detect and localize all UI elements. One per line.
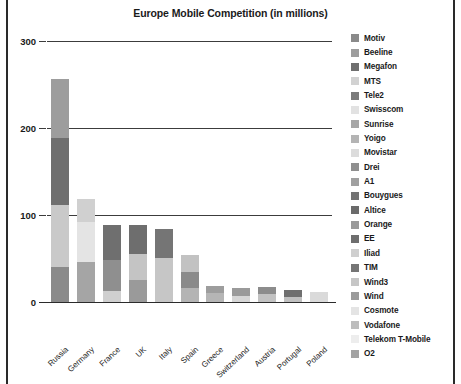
bar-segment-beeline [51, 205, 69, 268]
y-tick-mark-100 [39, 215, 46, 216]
legend-item-o2[interactable]: O2 [351, 347, 455, 361]
bar-segment-altice [103, 260, 121, 290]
legend-swatch-icon [351, 92, 359, 100]
bar-segment-wind3 [155, 258, 173, 302]
legend-label: MTS [364, 77, 381, 86]
legend-swatch-icon [351, 135, 359, 143]
legend-label: A1 [364, 177, 374, 186]
bar-segment-movistar [181, 255, 199, 272]
legend-item-wind3[interactable]: Wind3 [351, 275, 455, 289]
x-axis-label-uk: UK [134, 345, 148, 359]
legend-item-sunrise[interactable]: Sunrise [351, 117, 455, 131]
legend-swatch-icon [351, 34, 359, 42]
legend-label: Bouygues [364, 191, 403, 200]
legend-label: Megafon [364, 62, 397, 71]
bar-segment-telekom-t-mobile [77, 222, 95, 262]
legend-label: Cosmote [364, 306, 398, 315]
bar-russia [51, 79, 69, 302]
bar-segment-ee [129, 225, 147, 254]
legend-swatch-icon [351, 278, 359, 286]
legend-label: Sunrise [364, 120, 393, 129]
bar-segment-o2 [77, 199, 95, 222]
y-axis-label-100: 100 [20, 210, 36, 221]
bar-italy [155, 229, 173, 302]
legend-label: Movistar [364, 148, 397, 157]
y-axis-label-0: 0 [31, 297, 36, 308]
legend-item-mts[interactable]: MTS [351, 74, 455, 88]
bar-segment-motiv [51, 267, 69, 302]
x-axis-label-portugal: Portugal [275, 345, 303, 372]
legend-swatch-icon [351, 264, 359, 272]
legend-item-swisscom[interactable]: Swisscom [351, 103, 455, 117]
legend-item-vodafone[interactable]: Vodafone [351, 318, 455, 332]
legend-label: Yoigo [364, 134, 386, 143]
legend-swatch-icon [351, 63, 359, 71]
bar-segment-yoigo [181, 288, 199, 302]
legend-label: TIM [364, 263, 378, 272]
y-axis-label-200: 200 [20, 123, 36, 134]
bar-segment-mts [51, 79, 69, 137]
bar-segment-o2 [129, 280, 147, 302]
y-tick-mark-300 [39, 41, 46, 42]
legend-item-altice[interactable]: Altice [351, 203, 455, 217]
legend-item-cosmote[interactable]: Cosmote [351, 304, 455, 318]
legend-label: O2 [364, 349, 375, 358]
x-axis-label-italy: Italy [157, 345, 174, 362]
legend-item-motiv[interactable]: Motiv [351, 31, 455, 45]
x-axis-label-russia: Russia [46, 345, 70, 368]
chart-figure: Europe Mobile Competition (in millions) … [0, 0, 461, 384]
page-edge-left [6, 0, 8, 384]
legend-item-tim[interactable]: TIM [351, 261, 455, 275]
bar-segment-orange [181, 272, 199, 289]
legend-label: Altice [364, 206, 386, 215]
bar-segment-sunrise [232, 288, 250, 296]
legend-item-telekom-t-mobile[interactable]: Telekom T-Mobile [351, 332, 455, 346]
legend-swatch-icon [351, 77, 359, 85]
legend-item-drei[interactable]: Drei [351, 160, 455, 174]
legend-swatch-icon [351, 192, 359, 200]
legend-swatch-icon [351, 321, 359, 329]
bar-segment-a1 [258, 294, 276, 302]
bar-poland [310, 292, 328, 302]
legend-swatch-icon [351, 307, 359, 315]
legend-item-orange[interactable]: Orange [351, 217, 455, 231]
legend-label: EE [364, 234, 375, 243]
legend-item-movistar[interactable]: Movistar [351, 146, 455, 160]
bar-segment-vodafone [129, 254, 147, 280]
bar-austria [258, 287, 276, 302]
bar-segment-meo [284, 290, 302, 297]
legend-item-tele2[interactable]: Tele2 [351, 88, 455, 102]
bar-segment-swisscom [232, 296, 250, 302]
legend-item-wind[interactable]: Wind [351, 289, 455, 303]
bar-segment-play [310, 292, 328, 302]
legend-swatch-icon [351, 292, 359, 300]
bar-segment-megafon [51, 138, 69, 205]
y-axis-label-300: 300 [20, 36, 36, 47]
legend-label: Tele2 [364, 91, 384, 100]
legend-swatch-icon [351, 235, 359, 243]
legend-item-ee[interactable]: EE [351, 232, 455, 246]
bar-portugal [284, 290, 302, 302]
legend-swatch-icon [351, 120, 359, 128]
bar-group [47, 41, 332, 302]
legend-item-yoigo[interactable]: Yoigo [351, 131, 455, 145]
legend-item-a1[interactable]: A1 [351, 174, 455, 188]
legend-item-beeline[interactable]: Beeline [351, 45, 455, 59]
bar-france [103, 225, 121, 302]
y-tick-mark-200 [39, 128, 46, 129]
legend-label: Vodafone [364, 321, 400, 330]
x-axis-label-france: France [98, 345, 122, 369]
bar-greece [206, 286, 224, 302]
bar-spain [181, 255, 199, 302]
bar-segment-tim [155, 229, 173, 258]
bar-segment-cosmote [206, 286, 224, 293]
x-axis-label-austria: Austria [253, 345, 277, 369]
bar-segment-bouygues [103, 225, 121, 260]
legend-label: Motiv [364, 34, 385, 43]
legend-label: Swisscom [364, 105, 403, 114]
legend-swatch-icon [351, 149, 359, 157]
legend-item-megafon[interactable]: Megafon [351, 60, 455, 74]
legend-label: Beeline [364, 48, 392, 57]
legend-item-iliad[interactable]: Iliad [351, 246, 455, 260]
legend-item-bouygues[interactable]: Bouygues [351, 189, 455, 203]
